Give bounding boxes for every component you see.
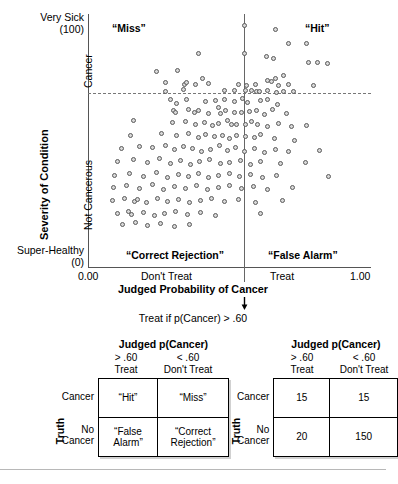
quadrant-label-correct-rejection: “Correct Rejection” [126,249,224,261]
scatter-point [247,109,252,114]
scatter-point [203,99,208,104]
scatter-point [223,108,228,113]
matrix-right-row-axis-label-text: Truth [230,418,242,444]
matrix-right-rowhead-cancer: Cancer [245,378,273,416]
scatter-point [203,132,208,137]
table-row: 20 150 [274,418,398,457]
scatter-point [258,132,263,137]
scatter-point [237,174,242,179]
matrix-right-table-wrap: Truth Cancer No Cancer 15 15 20 150 [232,378,398,457]
scatter-point [207,157,212,162]
scatter-point [198,210,203,215]
scatter-point [193,82,198,87]
scatter-point [188,162,193,167]
table-row: “Hit” “Miss” [99,379,229,418]
decision-rule-text: Treat if p(Cancer) > .60 [0,312,386,324]
scatter-point [133,220,138,225]
scatter-point [273,76,278,81]
matrix-left-row-axis-label: Truth [56,378,70,457]
matrix-right-colhead-treat: > .60 Treat [274,352,330,376]
scatter-point [184,80,189,85]
scatter-point [258,159,263,164]
matrix-right-colhead-treat-line1: > .60 [274,352,330,364]
scatter-point [172,147,177,152]
scatter-point [275,102,280,107]
scatter-point [196,51,201,56]
matrix-left-rowhead-no-cancer-line1: No [81,424,94,436]
scatter-point [150,145,155,150]
scatter-point [243,134,248,139]
scatter-point [196,108,201,113]
scatter-point [227,183,232,188]
scatter-point [249,119,254,124]
scatter-point [157,156,162,161]
scatter-point [128,133,133,138]
scatter-point [276,121,281,126]
scatter-point [290,185,295,190]
scatter-point [265,88,270,93]
scatter-point [186,107,191,112]
scatter-point [178,158,183,163]
scatter-point [253,82,258,87]
scatter-point [212,134,217,139]
matrix-left-cell-correct-rejection: “Correct Rejection” [158,418,229,457]
scatter-point [183,119,188,124]
scatter-point [281,73,286,78]
scatter-point [251,184,256,189]
scatter-point [239,186,244,191]
scatter-point [248,172,253,177]
scatter-point [257,89,262,94]
matrix-right-cell-hit-count: 15 [274,379,330,418]
scatter-point [236,82,241,87]
scatter-point [158,221,163,226]
matrix-left-colhead-dont-treat-line2: Don't Treat [154,364,222,376]
scatter-point [131,157,136,162]
scatter-point [262,150,267,155]
scatter-point [181,144,186,149]
quadrant-label-hit: “Hit” [305,22,330,34]
scatter-point [232,110,237,115]
down-arrow-icon [240,297,249,310]
scatter-point [200,76,205,81]
scatter-point [190,146,195,151]
scatter-point [119,146,124,151]
scatter-point [281,89,286,94]
scatter-point [286,41,291,46]
x-axis-title: Judged Probability of Cancer [0,283,386,295]
scatter-point [205,187,210,192]
scatter-point [229,122,234,127]
matrix-right-title: Judged p(Cancer) [274,338,398,350]
matrix-right-cell-miss-count: 15 [330,379,398,418]
scatter-point [218,161,223,166]
scatter-point [185,212,190,217]
x-tick-treat: Treat [270,270,294,282]
scatter-point [124,183,129,188]
quadrant-label-miss: “Miss” [112,22,146,34]
confusion-matrix-labels: Judged p(Cancer) > .60 Treat < .60 Don't… [56,338,229,457]
scatter-point [161,187,166,192]
scatter-point [165,175,170,180]
scatter-point [227,136,232,141]
matrix-left-rowhead-no-cancer: No Cancer [70,416,98,454]
scatter-point [265,187,270,192]
scatter-point [183,186,188,191]
scatter-point [141,210,146,215]
scatter-point [173,209,178,214]
scatter-point [232,88,237,93]
scatter-point [176,197,181,202]
scatter-point [176,172,181,177]
scatter-point [232,99,237,104]
scatter-point [278,161,283,166]
scatter-point [274,90,279,95]
scatter-point [213,98,218,103]
scatter-point [112,173,117,178]
scatter-point [197,159,202,164]
scatter-point [227,171,232,176]
scatter-point [216,105,221,110]
confusion-matrix-counts: Judged p(Cancer) > .60 Treat < .60 Don't… [232,338,398,457]
quadrant-label-false-alarm: “False Alarm” [268,249,338,261]
scatter-point [284,111,289,116]
scatter-point [242,23,247,28]
scatter-point [252,135,257,140]
scatter-point [286,149,291,154]
